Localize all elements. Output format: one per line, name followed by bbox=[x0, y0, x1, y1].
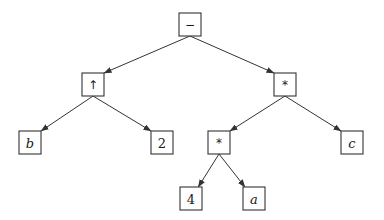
node-label: − bbox=[185, 18, 195, 32]
tree-node-root: − bbox=[179, 13, 201, 36]
node-label: b bbox=[26, 136, 34, 151]
node-label: * bbox=[282, 78, 288, 92]
tree-node-pow: ↑ bbox=[82, 73, 104, 96]
tree-node-four: 4 bbox=[180, 187, 202, 210]
node-label: 2 bbox=[158, 136, 166, 151]
node-label: * bbox=[216, 136, 222, 150]
node-label: 4 bbox=[187, 192, 195, 207]
tree-node-two: 2 bbox=[151, 131, 173, 154]
edge-mulM-to-four bbox=[198, 154, 219, 187]
edge-root-to-mulR bbox=[190, 36, 274, 73]
edge-mulM-to-a bbox=[219, 154, 245, 187]
tree-node-mulM: * bbox=[208, 131, 230, 154]
tree-node-c: c bbox=[341, 131, 363, 154]
edges-layer bbox=[41, 36, 341, 187]
node-label: ↑ bbox=[88, 78, 98, 92]
tree-node-a: a bbox=[243, 187, 265, 210]
tree-node-b: b bbox=[19, 131, 41, 154]
expression-tree-diagram: −↑*b2*c4a bbox=[0, 0, 384, 220]
edge-root-to-pow bbox=[104, 36, 190, 73]
edge-pow-to-b bbox=[41, 96, 93, 131]
edge-mulR-to-c bbox=[285, 96, 341, 131]
edge-mulR-to-mulM bbox=[230, 96, 285, 131]
edge-pow-to-two bbox=[93, 96, 151, 131]
node-label: a bbox=[250, 192, 258, 207]
node-label: c bbox=[348, 136, 356, 151]
tree-node-mulR: * bbox=[274, 73, 296, 96]
